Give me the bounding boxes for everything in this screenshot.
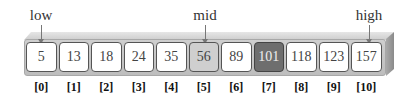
array-cell: 18 [91, 42, 122, 72]
mid-arrow-icon [205, 25, 206, 43]
array-cell: 13 [59, 42, 90, 72]
index-label: [0] [26, 80, 57, 95]
array-cells: 5 13 18 24 35 56 89 101 118 123 157 [26, 42, 382, 72]
high-arrow-icon [369, 25, 370, 43]
index-label: [10] [351, 80, 382, 95]
low-arrow-icon [41, 25, 42, 43]
array-cell-mid: 56 [189, 42, 220, 72]
array-cell: 157 [351, 42, 382, 72]
index-label: [4] [156, 80, 187, 95]
index-label: [1] [59, 80, 90, 95]
mid-label: mid [193, 7, 216, 24]
index-label: [9] [319, 80, 350, 95]
array-cell: 123 [319, 42, 350, 72]
index-label: [3] [124, 80, 155, 95]
array-bar-side [386, 32, 394, 76]
index-label: [5] [189, 80, 220, 95]
high-label: high [356, 7, 383, 24]
array-cell: 89 [221, 42, 252, 72]
index-label: [6] [221, 80, 252, 95]
index-label: [2] [91, 80, 122, 95]
array-cell: 24 [124, 42, 155, 72]
index-label: [7] [254, 80, 285, 95]
array-indices: [0] [1] [2] [3] [4] [5] [6] [7] [8] [9] … [26, 80, 382, 95]
index-label: [8] [286, 80, 317, 95]
array-cell-target: 101 [254, 42, 285, 72]
low-label: low [30, 7, 53, 24]
array-cell: 118 [286, 42, 317, 72]
array-cell: 35 [156, 42, 187, 72]
array-cell: 5 [26, 42, 57, 72]
